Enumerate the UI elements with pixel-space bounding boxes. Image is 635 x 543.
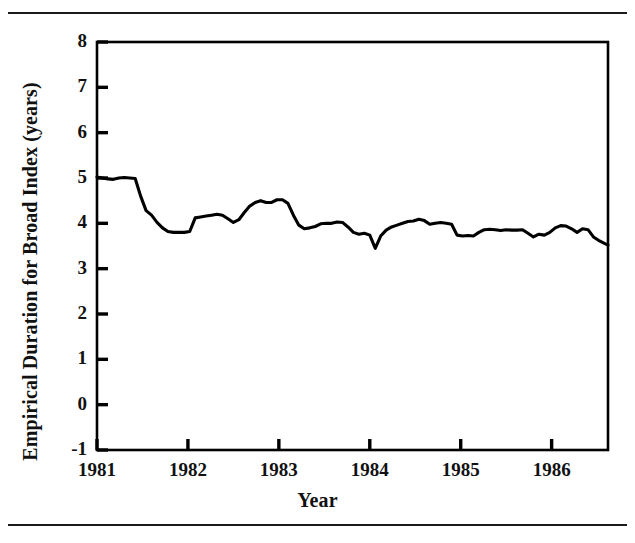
y-tick-label: 6 <box>61 121 87 143</box>
series-line <box>97 177 608 248</box>
x-axis-title: Year <box>0 489 635 512</box>
y-tick-label: 7 <box>61 75 87 97</box>
x-tick-label: 1984 <box>330 459 410 481</box>
y-axis-title: Empirical Duration for Broad Index (year… <box>10 0 50 543</box>
x-tick-label: 1985 <box>421 459 501 481</box>
data-series <box>97 177 608 248</box>
x-tick-label: 1982 <box>148 459 228 481</box>
x-tick-label: 1986 <box>512 459 592 481</box>
x-tick-label: 1981 <box>57 459 137 481</box>
y-tick-label: 8 <box>61 30 87 52</box>
figure: -1012345678 198119821983198419851986 Emp… <box>0 0 635 543</box>
axes-frame <box>97 42 608 450</box>
plot-frame <box>97 42 608 450</box>
y-tick-label: 2 <box>61 302 87 324</box>
y-tick-label: -1 <box>61 438 87 460</box>
axis-ticks <box>97 42 552 450</box>
y-tick-label: 0 <box>61 393 87 415</box>
y-tick-label: 5 <box>61 166 87 188</box>
x-tick-label: 1983 <box>239 459 319 481</box>
y-tick-label: 3 <box>61 257 87 279</box>
y-tick-label: 4 <box>61 211 87 233</box>
y-tick-label: 1 <box>61 347 87 369</box>
